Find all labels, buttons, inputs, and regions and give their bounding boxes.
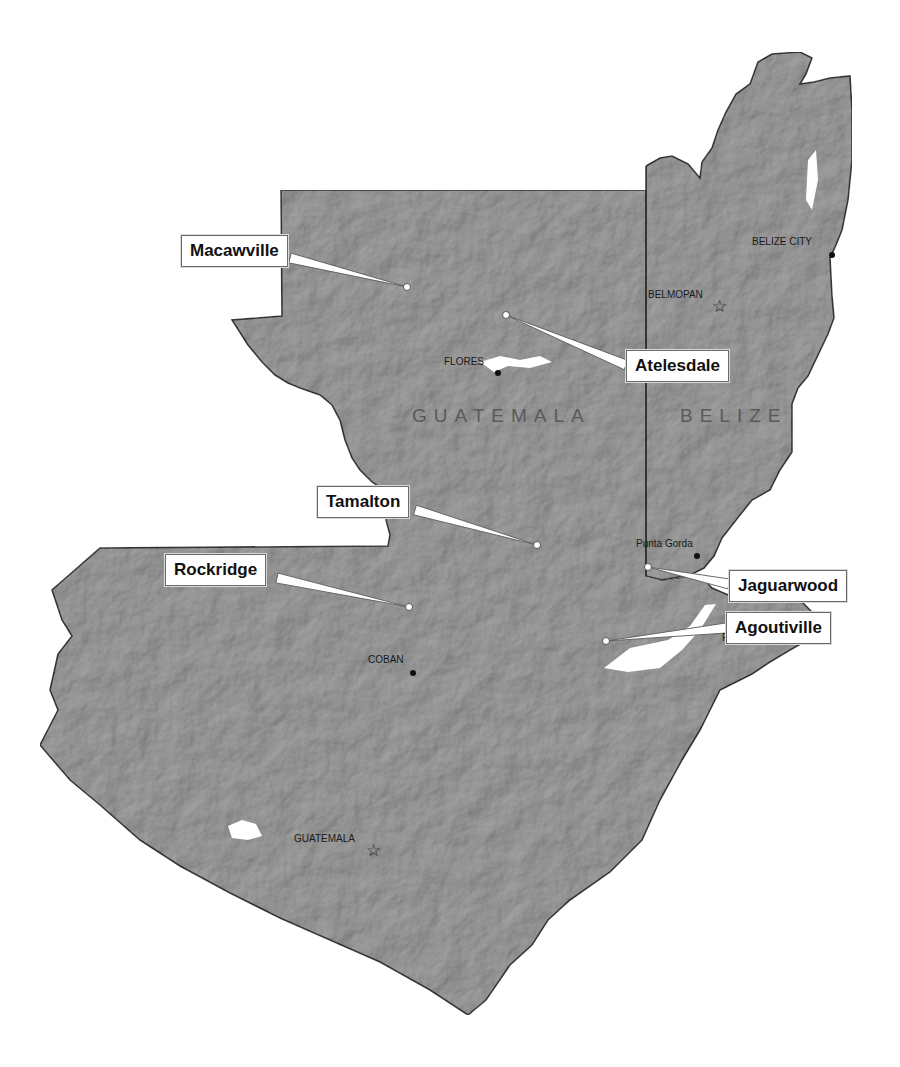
capital-label-belmopan: BELMOPAN (648, 289, 703, 300)
leader-line (648, 567, 730, 589)
site-callout-agoutiville[interactable]: Agoutiville (726, 612, 831, 644)
city-dot-icon (410, 670, 416, 676)
city-label-flores: FLORES (444, 356, 484, 367)
country-label-guatemala: GUATEMALA (412, 405, 591, 427)
site-point-marker-icon[interactable] (404, 284, 411, 291)
site-point-marker-icon[interactable] (503, 312, 510, 319)
leader-line (606, 623, 727, 641)
site-callout-jaguarwood[interactable]: Jaguarwood (729, 570, 847, 602)
leader-line (414, 505, 537, 545)
site-callout-atelesdale[interactable]: Atelesdale (626, 350, 729, 382)
capital-label-guatemala-city: GUATEMALA (294, 833, 355, 844)
site-callout-rockridge[interactable]: Rockridge (165, 554, 266, 586)
map-canvas: GUATEMALA BELIZE BELIZE CITY FLORES Punt… (0, 0, 900, 1067)
city-dot-icon (495, 370, 501, 376)
city-dot-icon (694, 553, 700, 559)
leader-line (289, 253, 407, 287)
capital-star-icon: ☆ (366, 840, 381, 861)
city-label-coban: COBAN (368, 654, 404, 665)
city-dot-icon (829, 252, 835, 258)
site-point-marker-icon[interactable] (603, 638, 610, 645)
leader-line (506, 315, 628, 370)
site-callout-tamalton[interactable]: Tamalton (317, 486, 409, 518)
leader-lines (0, 0, 900, 1067)
site-point-marker-icon[interactable] (534, 542, 541, 549)
capital-star-icon: ☆ (712, 296, 727, 317)
city-label-belize-city: BELIZE CITY (752, 236, 812, 247)
site-point-marker-icon[interactable] (645, 564, 652, 571)
site-point-marker-icon[interactable] (406, 604, 413, 611)
city-label-punta-gorda: Punta Gorda (636, 538, 693, 549)
leader-line (276, 573, 409, 607)
site-callout-macawville[interactable]: Macawville (181, 235, 288, 267)
country-label-belize: BELIZE (680, 405, 787, 427)
